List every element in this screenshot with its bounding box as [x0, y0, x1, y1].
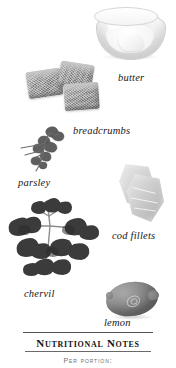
label-lemon: lemon	[104, 317, 131, 328]
lemon-highlight	[125, 293, 142, 309]
breadcrumbs-image	[26, 58, 110, 120]
lemon-stem-end	[106, 292, 113, 299]
cod-fillet-front	[126, 174, 164, 222]
parsley-image	[18, 124, 76, 174]
per-portion-subheading: Per portion:	[0, 357, 176, 364]
label-breadcrumbs: breadcrumbs	[73, 125, 130, 136]
butter-image	[92, 6, 168, 62]
ingredient-plate: butter breadcrumbs	[0, 0, 176, 368]
cod-fillets-image	[116, 162, 172, 226]
label-chervil: chervil	[24, 288, 55, 299]
lemon-tip	[147, 289, 160, 301]
bread-cube	[63, 82, 100, 111]
bread-cube-top	[25, 68, 61, 83]
fillet-flake-line	[134, 207, 156, 211]
chervil-image	[4, 196, 106, 288]
label-cod-fillets: cod fillets	[112, 230, 155, 241]
footer-top-rule	[23, 332, 153, 333]
lemon-image	[104, 278, 160, 322]
heading-underline	[25, 351, 151, 352]
fillet-flake-line	[131, 197, 158, 203]
bread-cube-top	[60, 61, 95, 76]
bread-cube-top	[63, 82, 99, 95]
fillet-flake-line	[132, 187, 156, 194]
chervil-sprig-icon	[4, 196, 106, 288]
parsley-sprig-icon	[18, 124, 76, 174]
label-butter: butter	[118, 72, 144, 83]
bowl-rim	[94, 7, 158, 26]
nutritional-notes-heading: Nutritional Notes	[0, 337, 176, 349]
label-parsley: parsley	[18, 177, 50, 188]
nutritional-notes-footer: Nutritional Notes Per portion:	[0, 332, 176, 364]
